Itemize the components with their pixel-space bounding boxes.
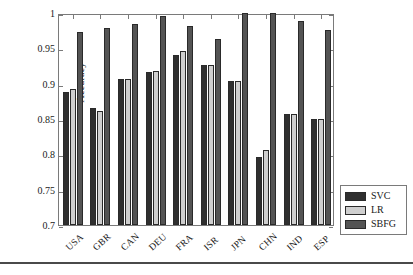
- bar-group: [118, 15, 138, 225]
- bar-chart-figure: Accuracy 0.70.750.80.850.90.951 USAGBRCA…: [0, 0, 413, 275]
- bar-svc-deu: [146, 72, 152, 225]
- bar-group: [201, 15, 221, 225]
- svc-color-swatch: [345, 192, 366, 201]
- y-tick-mark-mirror: [329, 227, 333, 228]
- bar-lr-jpn: [235, 81, 241, 225]
- bar-lr-fra: [180, 51, 186, 225]
- bar-lr-isr: [208, 65, 214, 225]
- y-tick-label: 0.8: [43, 149, 56, 160]
- chart-legend: SVCLRSBFG: [340, 185, 407, 235]
- bar-svc-isr: [201, 65, 207, 225]
- bar-sbfg-can: [132, 24, 138, 225]
- x-tick-label-gbr: GBR: [91, 232, 113, 253]
- sbfg-color-swatch: [345, 220, 366, 229]
- bar-group: [146, 15, 166, 225]
- bar-svc-can: [118, 79, 124, 225]
- bar-svc-chn: [256, 157, 262, 225]
- x-tick-label-deu: DEU: [147, 232, 169, 253]
- legend-label: SVC: [371, 191, 390, 201]
- legend-label: SBFG: [371, 219, 396, 229]
- x-tick-label-chn: CHN: [257, 231, 279, 252]
- bar-lr-gbr: [97, 111, 103, 225]
- bar-sbfg-chn: [270, 13, 276, 225]
- bar-group: [284, 15, 304, 225]
- legend-item-lr[interactable]: LR: [345, 203, 402, 217]
- y-tick-label: 0.75: [38, 185, 56, 196]
- y-tick-label: 1: [50, 8, 55, 19]
- bar-svc-fra: [173, 55, 179, 225]
- x-tick-label-usa: USA: [64, 232, 85, 253]
- bar-group: [228, 15, 248, 225]
- y-tick-mark: [59, 227, 63, 228]
- bar-sbfg-deu: [160, 16, 166, 225]
- bar-group: [256, 15, 276, 225]
- y-tick-label: 0.7: [43, 220, 56, 231]
- bar-lr-can: [125, 79, 131, 225]
- x-tick-label-esp: ESP: [312, 234, 331, 253]
- bar-svc-ind: [284, 114, 290, 225]
- bar-sbfg-esp: [325, 30, 331, 225]
- x-tick-label-fra: FRA: [174, 232, 195, 252]
- legend-label: LR: [371, 205, 384, 215]
- bar-lr-usa: [70, 89, 76, 225]
- bar-sbfg-jpn: [242, 13, 248, 225]
- lr-color-swatch: [345, 206, 366, 215]
- y-tick-label: 0.95: [38, 43, 56, 54]
- x-tick-label-can: CAN: [119, 231, 141, 252]
- page-divider-rule: [0, 262, 413, 264]
- bar-sbfg-isr: [215, 39, 221, 225]
- bar-sbfg-usa: [77, 32, 83, 225]
- legend-item-sbfg[interactable]: SBFG: [345, 217, 402, 231]
- bar-lr-esp: [318, 119, 324, 225]
- bar-lr-chn: [263, 150, 269, 225]
- bar-svc-jpn: [228, 81, 234, 225]
- bar-sbfg-fra: [187, 26, 193, 225]
- y-tick-label: 0.9: [43, 79, 56, 90]
- y-tick-label: 0.85: [38, 114, 56, 125]
- bar-sbfg-ind: [298, 21, 304, 225]
- plot-area: Accuracy 0.70.750.80.850.90.951 USAGBRCA…: [58, 14, 334, 226]
- bar-group: [311, 15, 331, 225]
- x-tick-label-ind: IND: [285, 233, 305, 252]
- bar-svc-esp: [311, 119, 317, 225]
- bar-group: [90, 15, 110, 225]
- bar-svc-usa: [63, 92, 69, 225]
- bar-sbfg-gbr: [104, 28, 110, 225]
- bar-group: [173, 15, 193, 225]
- x-tick-label-jpn: JPN: [229, 234, 248, 252]
- bar-group: [63, 15, 83, 225]
- legend-item-svc[interactable]: SVC: [345, 189, 402, 203]
- x-tick-label-isr: ISR: [202, 235, 220, 253]
- bar-lr-deu: [153, 71, 159, 225]
- bar-svc-gbr: [90, 108, 96, 225]
- bar-lr-ind: [291, 114, 297, 225]
